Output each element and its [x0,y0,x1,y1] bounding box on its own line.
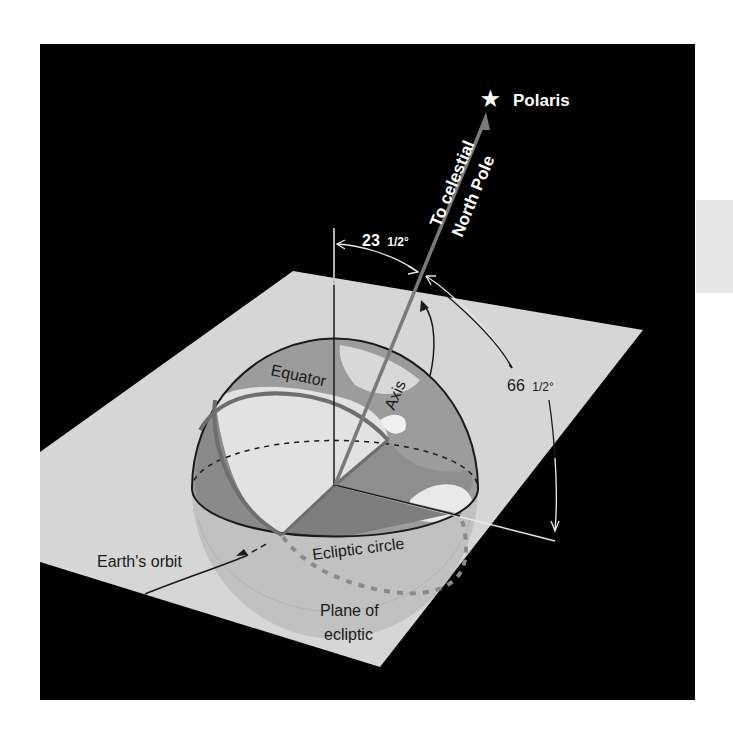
earth-tilt-diagram: ★ Polaris To celestial North Pole 23 1/2… [0,0,733,744]
polaris-label: Polaris [513,91,570,110]
complement-angle-whole: 66 [507,377,525,394]
earths-orbit-label: Earth's orbit [97,553,182,570]
star-icon: ★ [481,87,500,110]
plane-label-line1: Plane of [320,602,379,619]
tilt-angle-fraction: 1/2° [387,235,409,249]
plane-label-line2: ecliptic [324,626,373,643]
tilt-angle-whole: 23 [362,232,380,249]
complement-angle-fraction: 1/2° [532,380,554,394]
